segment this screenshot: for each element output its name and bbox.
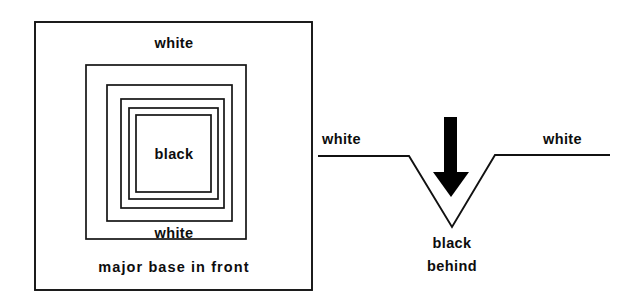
label-left-white: white (321, 131, 361, 147)
label-caption-major-base-in-front: major base in front (98, 259, 249, 275)
label-black-behind-line2: behind (427, 258, 477, 274)
right-panel-group: white white black behind (318, 117, 610, 274)
label-top-white: white (153, 35, 193, 51)
diagram-canvas: white black white major base in front wh… (0, 0, 619, 307)
label-center-black: black (154, 146, 194, 162)
label-bottom-white: white (153, 225, 193, 241)
down-arrow-head-icon (433, 172, 469, 197)
down-arrow-shaft (444, 117, 457, 180)
left-panel-group: white black white major base in front (35, 22, 312, 290)
label-right-white: white (542, 131, 582, 147)
figure-root: white black white major base in front wh… (0, 0, 619, 307)
groove-profile-line (318, 155, 610, 227)
label-black-behind-line1: black (432, 235, 472, 251)
